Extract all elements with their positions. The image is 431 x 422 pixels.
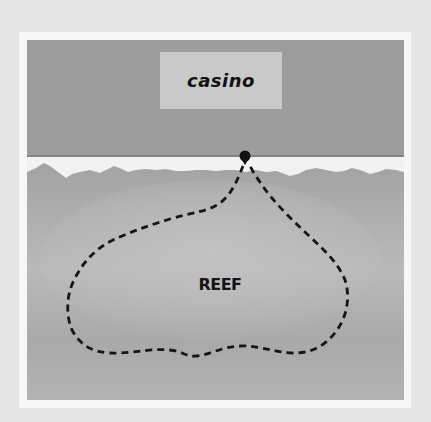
water-light-patch	[40, 180, 380, 340]
casino-label: casino	[187, 70, 255, 91]
reef-label: REEF	[192, 275, 248, 294]
casino-building: casino	[160, 52, 282, 109]
map-panel: casino REEF	[27, 40, 404, 400]
